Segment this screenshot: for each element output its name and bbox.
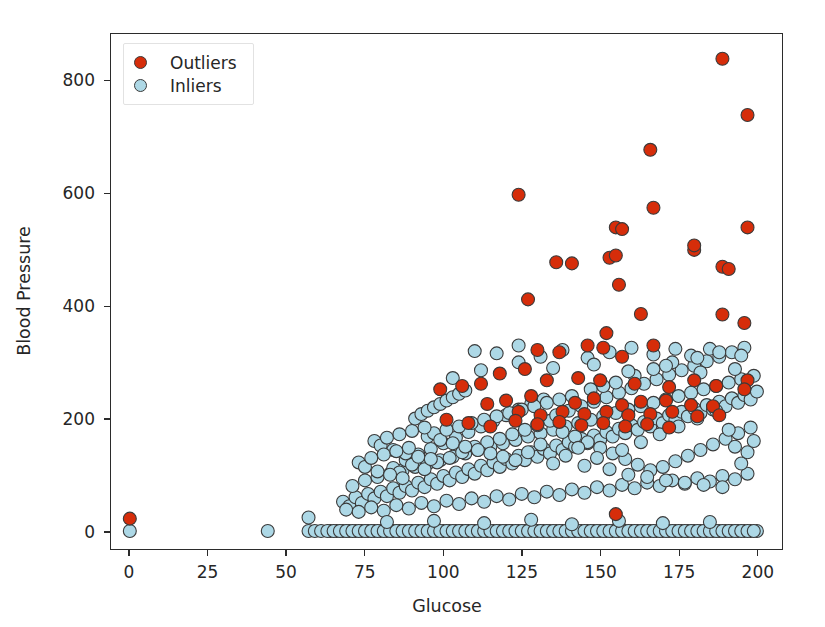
x-tick-label: 125 <box>506 562 538 582</box>
data-point <box>641 418 654 431</box>
chart-legend: Outliers Inliers <box>123 43 254 105</box>
data-point <box>377 448 390 461</box>
data-point <box>481 397 494 410</box>
data-point <box>666 405 679 418</box>
data-point <box>728 473 741 486</box>
data-point <box>669 455 682 468</box>
x-tick-mark <box>443 550 444 556</box>
data-point <box>440 413 453 426</box>
y-tick-mark <box>104 306 110 307</box>
data-point <box>478 495 491 508</box>
data-point <box>522 293 535 306</box>
data-point <box>716 481 729 494</box>
data-point <box>415 496 428 509</box>
data-point <box>722 376 735 389</box>
x-tick-mark <box>600 550 601 556</box>
data-point <box>540 485 553 498</box>
data-point <box>522 446 535 459</box>
data-point <box>697 478 710 491</box>
data-point <box>750 385 763 398</box>
data-point <box>631 458 644 471</box>
data-point <box>446 437 459 450</box>
data-point <box>465 492 478 505</box>
legend-item-label: Outliers <box>170 53 237 73</box>
legend-item-label: Inliers <box>170 76 222 96</box>
data-point <box>443 451 456 464</box>
data-point <box>456 379 469 392</box>
data-point <box>616 223 629 236</box>
legend-item: Outliers <box>134 51 237 74</box>
data-point <box>575 419 588 432</box>
data-point <box>634 308 647 321</box>
data-point <box>616 444 629 457</box>
data-point <box>518 363 531 376</box>
data-point <box>503 493 516 506</box>
data-point <box>475 377 488 390</box>
data-point <box>468 345 481 358</box>
data-point <box>365 451 378 464</box>
data-point <box>434 383 447 396</box>
data-point <box>509 414 522 427</box>
data-point <box>738 383 751 396</box>
data-point <box>619 420 632 433</box>
data-point <box>722 423 735 436</box>
data-point <box>384 468 397 481</box>
data-point <box>123 525 136 538</box>
data-point <box>358 474 371 487</box>
data-point <box>559 449 572 462</box>
y-tick-label: 0 <box>40 522 95 542</box>
data-point <box>616 350 629 363</box>
legend-item: Inliers <box>134 74 237 97</box>
data-point <box>493 432 506 445</box>
data-point <box>553 346 566 359</box>
data-point <box>685 386 698 399</box>
data-point <box>703 516 716 529</box>
x-tick-label: 175 <box>663 562 695 582</box>
data-point <box>553 393 566 406</box>
x-tick-mark <box>128 550 129 556</box>
plot-area <box>110 33 783 550</box>
data-point <box>506 428 519 441</box>
data-point <box>628 482 641 495</box>
data-point <box>716 308 729 321</box>
data-point <box>123 512 136 525</box>
series-inliers <box>123 339 763 537</box>
y-tick-mark <box>104 80 110 81</box>
data-point <box>512 188 525 201</box>
data-point <box>728 440 741 453</box>
data-point <box>427 514 440 527</box>
scatter-plot-figure: Blood Pressure 0200400600800 02550751001… <box>0 0 825 627</box>
data-point <box>393 428 406 441</box>
data-point <box>578 459 591 472</box>
data-point <box>622 468 635 481</box>
data-point <box>531 418 544 431</box>
data-point <box>471 444 484 457</box>
data-point <box>572 441 585 454</box>
data-point <box>597 417 610 430</box>
data-point <box>612 278 625 291</box>
y-axis-label: Blood Pressure <box>14 181 34 401</box>
data-point <box>550 256 563 269</box>
y-tick-mark <box>104 531 110 532</box>
data-point <box>462 417 475 430</box>
data-point <box>656 517 669 530</box>
data-point <box>694 444 707 457</box>
data-point <box>490 347 503 360</box>
data-point <box>741 221 754 234</box>
data-point <box>565 483 578 496</box>
data-point <box>669 342 682 355</box>
x-axis-label: Glucose <box>412 596 482 616</box>
data-point <box>591 481 604 494</box>
x-tick-mark <box>207 550 208 556</box>
circle-marker-icon <box>134 79 147 92</box>
data-point <box>547 361 560 374</box>
x-tick-mark <box>521 550 522 556</box>
data-point <box>380 431 393 444</box>
data-point <box>681 449 694 462</box>
data-point <box>528 491 541 504</box>
y-tick-label: 200 <box>40 409 95 429</box>
data-point <box>478 517 491 530</box>
data-point <box>540 374 553 387</box>
data-point <box>261 525 274 538</box>
y-tick-mark <box>104 418 110 419</box>
